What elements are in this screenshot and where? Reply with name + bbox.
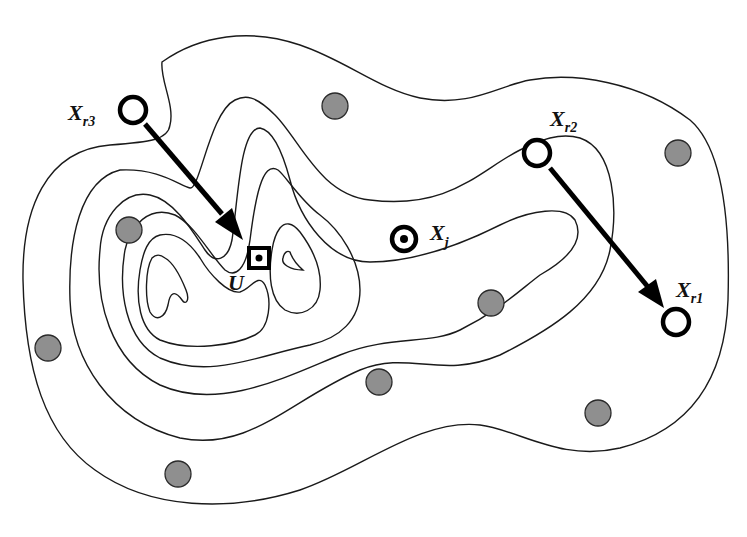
label-xj: Xj [429,220,449,250]
contour-inner-right [270,224,320,313]
reference-point-xr3 [120,97,146,123]
sample-point [35,335,61,361]
sample-point [366,369,392,395]
label-xr2: Xr2 [549,106,577,135]
arrow-xr3-to-u [145,124,243,240]
unknown-point-u [249,248,269,268]
contour-diagram: Xr3 Xr2 Xr1 Xj U [0,0,747,537]
target-point-xj [392,227,416,251]
sample-points [35,93,691,487]
sample-point [585,400,611,426]
contour-inner-tiny [283,251,303,270]
contour-3 [99,128,578,395]
reference-point-xr2 [524,140,550,166]
contour-inner-left [146,255,187,318]
label-xr1: Xr1 [675,277,703,306]
sample-point [322,93,348,119]
label-xr3: Xr3 [67,100,95,129]
sample-point [116,217,142,243]
arrow-xr2-to-xr1 [550,168,664,308]
sample-point [478,290,504,316]
sample-point [665,140,691,166]
sample-point [165,461,191,487]
reference-point-xr1 [663,309,689,335]
label-u: U [228,270,245,295]
